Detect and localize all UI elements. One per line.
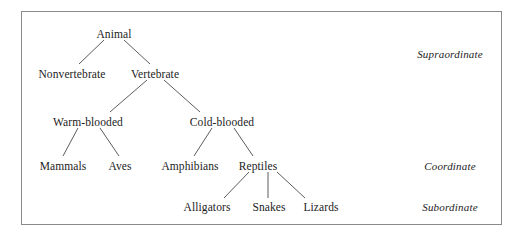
level-label-supraordinate: Supraordinate xyxy=(417,48,483,61)
tree-node-nonvertebrate: Nonvertebrate xyxy=(38,68,105,81)
hierarchy-diagram: AnimalNonvertebrateVertebrateWarm-bloode… xyxy=(0,0,523,239)
tree-node-vertebrate: Vertebrate xyxy=(131,68,179,81)
tree-node-cold-blooded: Cold-blooded xyxy=(190,116,254,129)
level-label-coordinate: Coordinate xyxy=(424,160,476,173)
tree-node-snakes: Snakes xyxy=(252,201,285,214)
tree-node-mammals: Mammals xyxy=(40,160,87,173)
tree-node-aves: Aves xyxy=(108,160,131,173)
tree-node-animal: Animal xyxy=(96,28,131,41)
tree-node-amphibians: Amphibians xyxy=(161,160,218,173)
tree-node-warm-blooded: Warm-blooded xyxy=(53,116,123,129)
tree-node-reptiles: Reptiles xyxy=(239,160,278,173)
tree-node-lizards: Lizards xyxy=(303,201,338,214)
tree-node-alligators: Alligators xyxy=(184,201,231,214)
level-label-subordinate: Subordinate xyxy=(422,201,478,214)
